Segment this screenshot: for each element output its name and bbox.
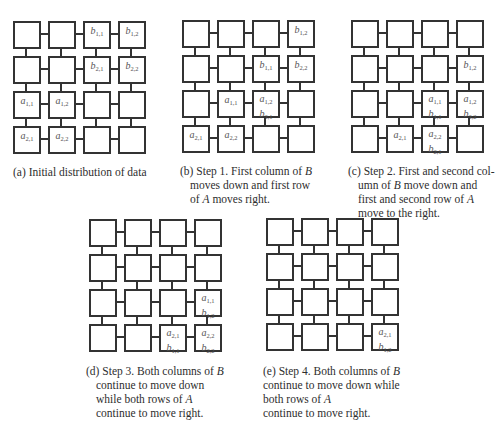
horizontal-link: [210, 102, 217, 104]
vertical-link: [278, 316, 280, 323]
vertical-link: [206, 282, 208, 289]
horizontal-link: [414, 102, 421, 104]
horizontal-link: [329, 335, 336, 337]
horizontal-link: [414, 32, 421, 34]
processor-node: b1,2: [118, 21, 146, 49]
horizontal-link: [117, 266, 124, 268]
processor-node: a2,1: [13, 126, 41, 154]
vertical-link: [264, 48, 266, 55]
horizontal-link: [187, 231, 194, 233]
matrix-element-label: b1,1: [85, 25, 109, 39]
vertical-link: [313, 281, 315, 288]
processor-node: [159, 289, 187, 317]
caption-line: umn of B move down and: [348, 178, 495, 192]
processor-node: [301, 253, 329, 281]
processor-node: [118, 91, 146, 119]
horizontal-link: [111, 68, 118, 70]
matrix-element-label: a1,1: [196, 292, 220, 306]
processor-node: [371, 253, 399, 281]
matrix-element-label: b2,1: [254, 108, 278, 122]
processor-node: [456, 125, 484, 153]
matrix-element-label: b1,1: [161, 342, 185, 356]
processor-node: [351, 20, 379, 48]
horizontal-link: [117, 336, 124, 338]
matrix-element-label: a2,2: [219, 129, 243, 143]
processor-node: [48, 56, 76, 84]
vertical-link: [383, 316, 385, 323]
horizontal-link: [449, 102, 456, 104]
horizontal-link: [379, 67, 386, 69]
horizontal-link: [76, 33, 83, 35]
vertical-link: [60, 49, 62, 56]
caption-line: while both rows of A: [86, 392, 224, 406]
matrix-element-label: a1,1: [15, 95, 39, 109]
matrix-element-label: a2,1: [373, 326, 397, 340]
matrix-element-label: a2,1: [388, 129, 412, 143]
caption-line: continue to move right.: [263, 406, 400, 420]
processor-grid: a2,1b1,2: [266, 218, 404, 356]
processor-grid: b1,1b1,2b2,1b2,2a1,1a1,2a2,1a2,2: [13, 21, 151, 159]
vertical-link: [229, 48, 231, 55]
caption-a: (a) Initial distribution of data: [13, 165, 147, 179]
horizontal-link: [210, 137, 217, 139]
horizontal-link: [111, 138, 118, 140]
processor-node: [336, 218, 364, 246]
vertical-link: [60, 84, 62, 91]
horizontal-link: [117, 301, 124, 303]
matrix-element-label: a2,2: [196, 327, 220, 341]
processor-node: [386, 20, 414, 48]
horizontal-link: [76, 68, 83, 70]
processor-grid: a1,1b1,2a2,1b1,1a2,2b2,2: [89, 219, 227, 357]
processor-node: [371, 288, 399, 316]
horizontal-link: [449, 67, 456, 69]
processor-node: [336, 253, 364, 281]
panel-a: b1,1b1,2b2,1b2,2a1,1a1,2a2,1a2,2 (a) Ini…: [13, 21, 151, 159]
vertical-link: [171, 282, 173, 289]
caption-line: (c) Step 2. First and second col-: [348, 164, 495, 178]
horizontal-link: [449, 32, 456, 34]
vertical-link: [363, 83, 365, 90]
vertical-link: [101, 247, 103, 254]
vertical-link: [299, 48, 301, 55]
horizontal-link: [379, 137, 386, 139]
processor-node: [421, 55, 449, 83]
matrix-element-label: a1,1: [423, 93, 447, 107]
horizontal-link: [111, 103, 118, 105]
horizontal-link: [76, 138, 83, 140]
vertical-link: [136, 282, 138, 289]
processor-node: a1,2: [48, 91, 76, 119]
processor-node: [336, 288, 364, 316]
horizontal-link: [187, 266, 194, 268]
processor-node: [351, 55, 379, 83]
horizontal-link: [294, 265, 301, 267]
matrix-element-label: b1,2: [458, 59, 482, 73]
matrix-element-label: b1,1: [423, 108, 447, 122]
processor-node: b2,2: [287, 55, 315, 83]
processor-node: [124, 324, 152, 352]
vertical-link: [398, 48, 400, 55]
horizontal-link: [210, 32, 217, 34]
horizontal-link: [294, 335, 301, 337]
processor-node: b1,2: [287, 20, 315, 48]
vertical-link: [348, 246, 350, 253]
vertical-link: [229, 118, 231, 125]
matrix-element-label: b2,2: [120, 60, 144, 74]
processor-node: [351, 125, 379, 153]
vertical-link: [363, 48, 365, 55]
processor-node: [194, 219, 222, 247]
vertical-link: [433, 118, 435, 125]
horizontal-link: [117, 231, 124, 233]
vertical-link: [348, 281, 350, 288]
horizontal-link: [245, 32, 252, 34]
processor-node: b1,1: [83, 21, 111, 49]
processor-node: [252, 20, 280, 48]
vertical-link: [206, 317, 208, 324]
vertical-link: [398, 83, 400, 90]
processor-node: [301, 323, 329, 351]
processor-node: [182, 90, 210, 118]
matrix-element-label: b2,1: [85, 60, 109, 74]
matrix-element-label: a2,1: [184, 129, 208, 143]
processor-node: a2,2: [217, 125, 245, 153]
processor-grid: b1,2a1,1b1,1a1,2b2,2a2,1a2,2b2,1: [351, 20, 489, 158]
horizontal-link: [280, 137, 287, 139]
